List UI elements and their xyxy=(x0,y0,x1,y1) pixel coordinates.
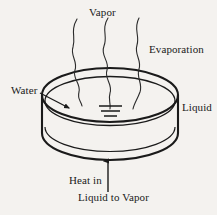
dish-bottom-outer xyxy=(42,133,178,160)
label-evaporation: Evaporation xyxy=(149,44,204,55)
label-vapor: Vapor xyxy=(89,7,116,18)
dish-body xyxy=(42,68,178,160)
dish-bottom-inner xyxy=(45,127,175,152)
vapor-streams xyxy=(72,18,140,109)
vapor-stream-center xyxy=(103,18,111,109)
label-liquid: Liquid xyxy=(182,102,212,113)
label-heat-in: Heat in xyxy=(69,175,102,186)
label-liquid-to-vapor: Liquid to Vapor xyxy=(78,192,149,203)
diagram-canvas: Vapor Evaporation Water Liquid Heat in L… xyxy=(0,0,217,215)
vapor-stream-right xyxy=(133,18,141,109)
label-water: Water xyxy=(11,85,38,96)
vapor-stream-left xyxy=(72,19,82,106)
